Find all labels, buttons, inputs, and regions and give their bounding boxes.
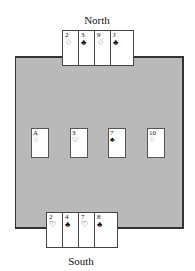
club-icon: ♣ — [65, 221, 70, 229]
north-card-4[interactable]: J ♣ — [110, 30, 134, 66]
south-card-4[interactable]: 8 ♣ — [94, 212, 118, 248]
club-icon: ♣ — [81, 39, 86, 47]
north-card-2[interactable]: 3 ♣ — [78, 30, 95, 66]
south-hand: 2 ♡ 4 ♣ 7 ♡ 8 ♣ — [46, 212, 117, 248]
club-icon: ♣ — [113, 39, 118, 47]
center-card-3[interactable]: 7 ♣ — [108, 128, 126, 158]
card-table: A ♢ 3 ♡ 7 ♣ 10 ♢ — [15, 56, 184, 229]
heart-icon: ♡ — [49, 221, 56, 229]
center-card-2[interactable]: 3 ♡ — [70, 128, 88, 158]
north-hand: 2 ♢ 3 ♣ 9 ♢ J ♣ — [62, 30, 133, 66]
north-label: North — [57, 14, 137, 26]
north-card-3[interactable]: 9 ♢ — [94, 30, 111, 66]
club-icon: ♣ — [97, 221, 102, 229]
center-card-4[interactable]: 10 ♢ — [147, 128, 165, 158]
south-label: South — [41, 255, 121, 267]
club-icon: ♣ — [110, 137, 115, 144]
heart-icon: ♡ — [81, 221, 88, 229]
south-card-2[interactable]: 4 ♣ — [62, 212, 79, 248]
south-card-3[interactable]: 7 ♡ — [78, 212, 95, 248]
diamond-icon: ♢ — [149, 137, 155, 144]
diamond-icon: ♢ — [33, 137, 39, 144]
diamond-icon: ♢ — [97, 39, 104, 47]
diamond-icon: ♢ — [65, 39, 72, 47]
south-card-1[interactable]: 2 ♡ — [46, 212, 63, 248]
center-card-1[interactable]: A ♢ — [31, 128, 49, 158]
heart-icon: ♡ — [72, 137, 78, 144]
north-card-1[interactable]: 2 ♢ — [62, 30, 79, 66]
